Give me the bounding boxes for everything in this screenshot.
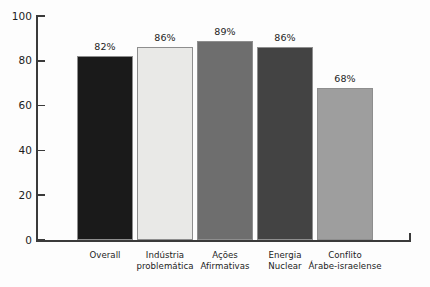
bar-value-label: 89%: [197, 27, 253, 37]
bar-value-label: 86%: [137, 33, 193, 43]
bar[interactable]: [137, 47, 193, 240]
x-axis-category-line: Árabe-israelense: [307, 261, 383, 272]
bar[interactable]: [317, 88, 373, 240]
bar-value-label: 68%: [317, 74, 373, 84]
bar[interactable]: [257, 47, 313, 240]
x-axis-category-label: ConflitoÁrabe-israelense: [307, 250, 383, 273]
bar[interactable]: [197, 41, 253, 240]
bar[interactable]: [77, 56, 133, 240]
bar-chart: 020406080100 82%Overall86%Indústriaprobl…: [0, 0, 430, 287]
bar-value-label: 86%: [257, 33, 313, 43]
plot-area: 82%Overall86%Indústriaproblemática89%Açõ…: [0, 0, 430, 287]
bar-value-label: 82%: [77, 42, 133, 52]
x-axis-category-line: Conflito: [307, 250, 383, 261]
